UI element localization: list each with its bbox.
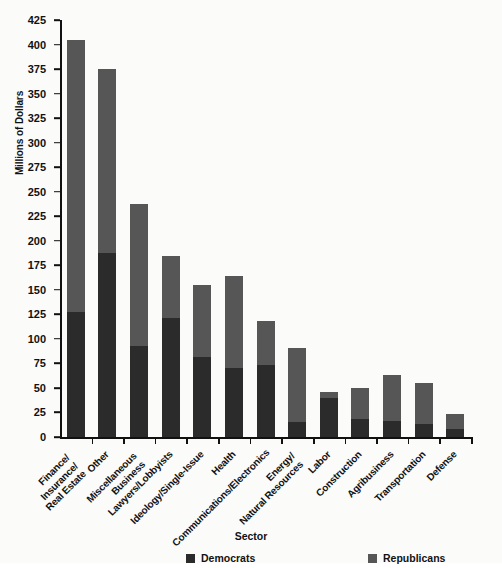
bar-segment-democrats[interactable] (446, 429, 464, 437)
x-tick-mark (281, 437, 283, 444)
bar-group[interactable] (320, 392, 338, 437)
bar-segment-republicans[interactable] (351, 388, 369, 419)
bar-group[interactable] (98, 69, 116, 437)
x-tick-mark (345, 437, 347, 444)
bar-segment-republicans[interactable] (98, 69, 116, 252)
bar-segment-democrats[interactable] (257, 365, 275, 437)
legend-item-republicans: Republicans (368, 552, 445, 564)
x-axis-title: Sector (0, 530, 502, 542)
x-tick-mark (186, 437, 188, 444)
bar-segment-democrats[interactable] (130, 346, 148, 437)
y-tick-label: 125 (12, 309, 46, 320)
bar-segment-democrats[interactable] (193, 357, 211, 437)
bar-group[interactable] (130, 204, 148, 437)
x-tick-mark (155, 437, 157, 444)
bar-group[interactable] (415, 383, 433, 437)
bar-segment-republicans[interactable] (320, 392, 338, 398)
bar-group[interactable] (225, 276, 243, 437)
bar-segment-republicans[interactable] (415, 383, 433, 424)
x-tick-mark (471, 437, 473, 444)
bar-group[interactable] (67, 40, 85, 437)
y-tick-label: 225 (12, 211, 46, 222)
bar-segment-republicans[interactable] (446, 414, 464, 429)
bar-segment-democrats[interactable] (288, 422, 306, 437)
bar-segment-democrats[interactable] (415, 424, 433, 437)
y-tick-label: 375 (12, 64, 46, 75)
bar-group[interactable] (257, 321, 275, 437)
legend-swatch-republicans (368, 554, 377, 563)
bar-segment-republicans[interactable] (225, 276, 243, 368)
bar-segment-republicans[interactable] (383, 375, 401, 421)
bar-group[interactable] (351, 388, 369, 437)
y-tick-label: 150 (12, 284, 46, 295)
y-tick-label: 50 (12, 382, 46, 393)
x-tick-mark (218, 437, 220, 444)
y-tick-label: 175 (12, 260, 46, 271)
y-tick-label: 0 (12, 432, 46, 443)
x-tick-mark (439, 437, 441, 444)
bar-group[interactable] (162, 256, 180, 437)
legend-item-democrats: Democrats (186, 552, 255, 564)
chart-legend: Democrats Republicans (0, 552, 502, 568)
bar-group[interactable] (193, 285, 211, 437)
bar-group[interactable] (288, 348, 306, 437)
bar-segment-republicans[interactable] (130, 204, 148, 345)
bar-segment-democrats[interactable] (383, 421, 401, 437)
bar-segment-democrats[interactable] (351, 419, 369, 437)
x-tick-mark (313, 437, 315, 444)
bar-segment-republicans[interactable] (162, 256, 180, 318)
y-tick-label: 325 (12, 113, 46, 124)
x-tick-mark (408, 437, 410, 444)
y-tick-label: 250 (12, 186, 46, 197)
x-tick-mark (250, 437, 252, 444)
y-tick-label: 275 (12, 162, 46, 173)
x-axis-label: Energy/ Natural Resources (197, 450, 305, 558)
bar-segment-democrats[interactable] (98, 253, 116, 437)
y-axis-ticks: 0255075100125150175200225250275300325350… (12, 0, 60, 563)
y-tick-label: 200 (12, 235, 46, 246)
y-tick-label: 25 (12, 407, 46, 418)
legend-swatch-democrats (186, 554, 195, 563)
y-tick-label: 350 (12, 88, 46, 99)
bar-group[interactable] (446, 414, 464, 437)
bar-segment-republicans[interactable] (288, 348, 306, 423)
y-tick-label: 300 (12, 137, 46, 148)
bar-segment-democrats[interactable] (67, 312, 85, 437)
y-tick-label: 75 (12, 358, 46, 369)
x-tick-mark (376, 437, 378, 444)
bar-segment-democrats[interactable] (320, 398, 338, 437)
legend-label-democrats: Democrats (201, 552, 255, 564)
y-tick-label: 400 (12, 39, 46, 50)
bar-group[interactable] (383, 375, 401, 437)
y-tick-label: 425 (12, 15, 46, 26)
x-tick-mark (92, 437, 94, 444)
bar-segment-democrats[interactable] (225, 368, 243, 437)
x-tick-mark (123, 437, 125, 444)
bar-segment-republicans[interactable] (67, 40, 85, 313)
bar-segment-democrats[interactable] (162, 318, 180, 437)
y-tick-label: 100 (12, 333, 46, 344)
plot-area (60, 20, 471, 437)
bar-segment-republicans[interactable] (193, 285, 211, 357)
legend-label-republicans: Republicans (383, 552, 445, 564)
bar-segment-republicans[interactable] (257, 321, 275, 365)
